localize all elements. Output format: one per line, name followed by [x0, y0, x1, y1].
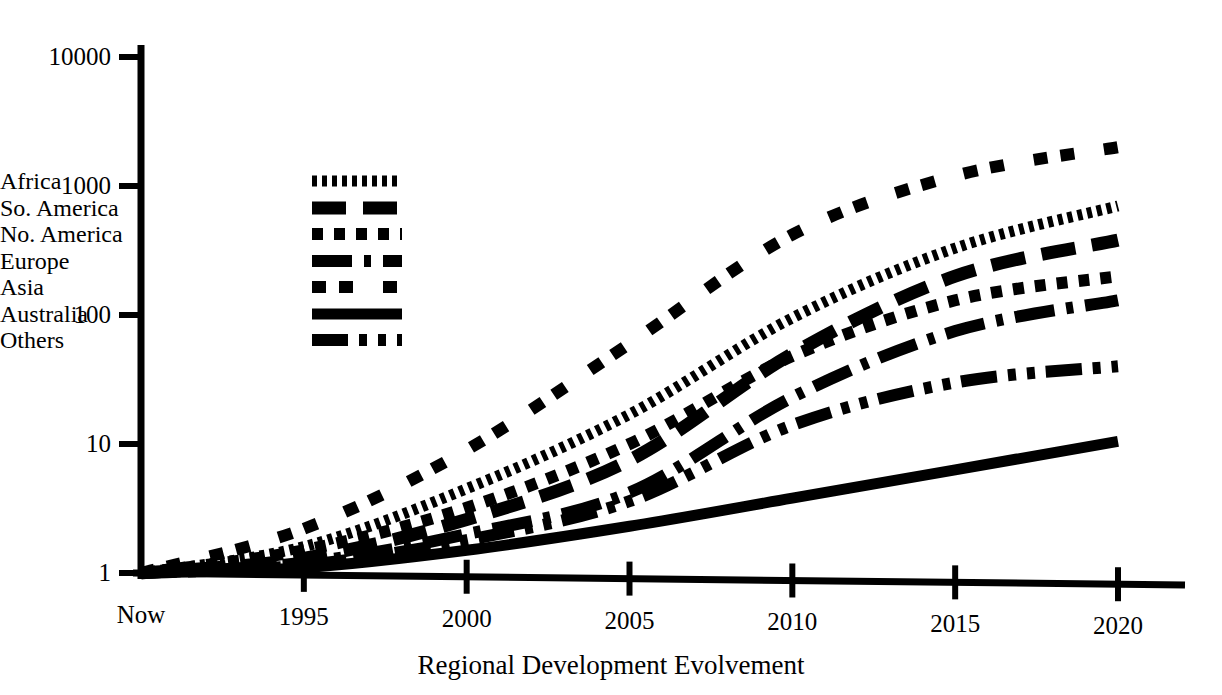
legend-swatch-line — [312, 327, 402, 353]
legend-item-swatch — [312, 327, 402, 353]
legend-item-swatch — [312, 248, 402, 274]
legend-item: Australia — [0, 301, 412, 327]
legend-item-swatch — [312, 274, 402, 300]
x-tick-label: 2020 — [1038, 613, 1198, 638]
chart-title: Regional Development Evolvement — [0, 650, 1222, 681]
y-tick-label: 10 — [86, 431, 111, 456]
x-tick-label: 2000 — [387, 606, 547, 631]
legend-swatch-line — [312, 301, 402, 327]
legend-swatch-line — [312, 195, 402, 221]
x-tick-label: Now — [61, 602, 221, 627]
legend-swatch-line — [312, 168, 402, 194]
x-tick-label: 2005 — [550, 608, 710, 633]
y-tick-label: 1 — [99, 560, 112, 585]
legend-item: No. America — [0, 221, 412, 247]
chart-figure: 110100100010000 Now199520002005201020152… — [0, 0, 1222, 695]
legend-swatch-line — [312, 221, 402, 247]
legend-item-swatch — [312, 301, 402, 327]
legend-swatch-line — [312, 274, 402, 300]
x-axis-line — [133, 573, 1185, 585]
legend-item: Africa — [0, 168, 412, 194]
legend-item-swatch — [312, 221, 402, 247]
legend-swatch-line — [312, 248, 402, 274]
legend-item: So. America — [0, 195, 412, 221]
x-tick-label: 2010 — [712, 609, 872, 634]
legend-item: Asia — [0, 274, 412, 300]
legend-item: Europe — [0, 248, 412, 274]
legend-item: Others — [0, 327, 412, 353]
legend-item-swatch — [312, 195, 402, 221]
x-tick-label: 1995 — [224, 604, 384, 629]
x-tick-label: 2015 — [875, 611, 1035, 636]
y-tick-label: 10000 — [49, 44, 112, 69]
legend-item-swatch — [312, 168, 402, 194]
